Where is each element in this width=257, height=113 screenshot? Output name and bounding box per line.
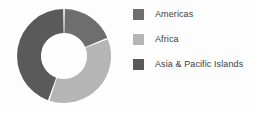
legend-item-africa[interactable]: Africa	[133, 33, 257, 45]
legend-label-asia-pacific-islands: Asia & Pacific Islands	[155, 59, 243, 70]
chart-legend: Americas Africa Asia & Pacific Islands	[133, 8, 257, 88]
legend-item-asia-pacific-islands[interactable]: Asia & Pacific Islands	[133, 58, 257, 70]
legend-swatch-asia-pacific-islands	[133, 59, 144, 70]
donut-slice-africa[interactable]	[49, 39, 111, 103]
donut-slice-group	[17, 9, 111, 103]
donut-slice-americas[interactable]	[64, 9, 107, 47]
chart-plot-area	[8, 0, 128, 113]
legend-label-americas: Americas	[155, 9, 193, 20]
legend-swatch-americas	[133, 9, 144, 20]
donut-chart-svg	[8, 0, 128, 113]
legend-swatch-africa	[133, 34, 144, 45]
donut-chart-figure: Americas Africa Asia & Pacific Islands	[0, 0, 257, 113]
legend-item-americas[interactable]: Americas	[133, 8, 257, 20]
legend-label-africa: Africa	[155, 34, 179, 45]
